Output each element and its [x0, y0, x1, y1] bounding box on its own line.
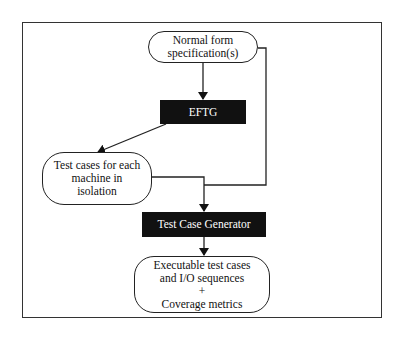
flow-diagram: Normal form specification(s) EFTG Test c… [0, 0, 404, 337]
node-tcg-label: Test Case Generator [157, 218, 250, 231]
node-isolated-label: Test cases for each machine in isolation [54, 159, 140, 198]
node-output-label: Executable test cases and I/O sequences … [153, 259, 250, 311]
edge-isolated-tcg [152, 177, 204, 211]
node-spec-label: Normal form specification(s) [168, 34, 239, 60]
node-eftg: EFTG [160, 100, 246, 124]
node-spec: Normal form specification(s) [148, 31, 258, 63]
edge-eftg-isolated [98, 124, 166, 152]
node-output: Executable test cases and I/O sequences … [134, 256, 270, 313]
node-tcg: Test Case Generator [142, 212, 266, 237]
node-eftg-label: EFTG [189, 106, 218, 119]
node-isolated: Test cases for each machine in isolation [42, 152, 152, 205]
